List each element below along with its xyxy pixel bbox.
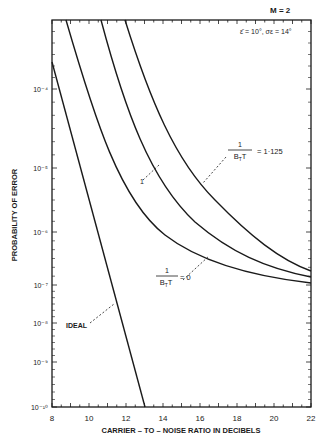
y-ticks: 10⁻⁴10⁻⁵10⁻⁶10⁻⁷10⁻⁸10⁻⁹10⁻¹⁰	[31, 32, 311, 412]
svg-text:BTT: BTT	[234, 152, 247, 162]
annotation-ideal: IDEAL	[66, 322, 88, 329]
svg-text:1: 1	[165, 267, 169, 274]
y-axis-label: PROBABILITY OF ERROR	[10, 168, 19, 261]
x-tick-label: 8	[50, 414, 55, 423]
x-tick-label: 22	[307, 414, 316, 423]
x-tick-label: 18	[233, 414, 242, 423]
params-label: ε̄ = 10°, σε = 14°	[240, 28, 292, 35]
svg-text:= 0: = 0	[180, 273, 191, 282]
arrow-top	[203, 157, 226, 183]
y-tick-label: 10⁻⁵	[33, 165, 48, 172]
curve-btt-1125	[125, 20, 311, 271]
y-tick-label: 10⁻⁸	[33, 320, 48, 327]
svg-text:= 1·125: = 1·125	[257, 147, 283, 156]
x-tick-label: 10	[85, 414, 94, 423]
curve-ideal	[52, 62, 145, 407]
arrow-ideal	[90, 304, 114, 323]
m-label: M = 2	[270, 6, 291, 15]
chart: 810121416182022 10⁻⁴10⁻⁵10⁻⁶10⁻⁷10⁻⁸10⁻⁹…	[0, 0, 325, 445]
y-tick-label: 10⁻¹⁰	[31, 404, 48, 411]
x-axis-label: CARRIER – TO – NOISE RATIO IN DECIBELS	[102, 426, 261, 435]
y-tick-label: 10⁻⁴	[33, 86, 48, 93]
x-tick-label: 14	[159, 414, 168, 423]
y-tick-label: 10⁻⁷	[34, 282, 49, 289]
plot-frame	[52, 20, 311, 407]
annotation-mid: 1	[140, 178, 144, 185]
x-tick-label: 16	[196, 414, 205, 423]
y-tick-label: 10⁻⁹	[33, 359, 48, 366]
svg-text:BTT: BTT	[160, 278, 173, 288]
svg-text:1: 1	[238, 141, 242, 148]
x-tick-label: 20	[270, 414, 279, 423]
x-ticks: 810121416182022	[50, 20, 316, 423]
y-tick-label: 10⁻⁶	[33, 229, 48, 236]
x-tick-label: 12	[122, 414, 131, 423]
annotation-bottom: 1 BTT = 0	[156, 267, 191, 288]
annotation-top: 1 BTT = 1·125	[228, 141, 283, 162]
